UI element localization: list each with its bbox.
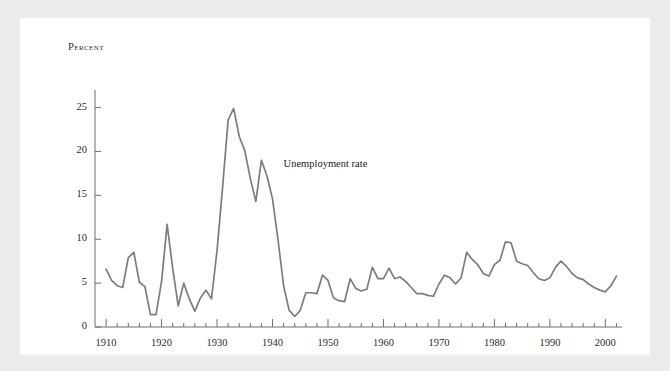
y-tick-label: 10 bbox=[63, 232, 87, 243]
y-tick-label: 15 bbox=[63, 188, 87, 199]
chart-figure: Percent 0510152025 191019201930194019501… bbox=[0, 0, 670, 371]
series-layer bbox=[106, 108, 616, 316]
chart-plot-area bbox=[0, 0, 670, 371]
x-tick-label: 1980 bbox=[474, 337, 514, 348]
x-tick-label: 1970 bbox=[419, 337, 459, 348]
x-tick-label: 1930 bbox=[197, 337, 237, 348]
x-tick-label: 2000 bbox=[585, 337, 625, 348]
x-tick-label: 1950 bbox=[308, 337, 348, 348]
y-tick-label: 25 bbox=[63, 101, 87, 112]
x-tick-label: 1940 bbox=[253, 337, 293, 348]
x-tick-label: 1960 bbox=[363, 337, 403, 348]
x-tick-label: 1920 bbox=[142, 337, 182, 348]
y-axis-title: Percent bbox=[68, 41, 104, 52]
data-line-unemployment-rate bbox=[106, 108, 616, 316]
x-tick-label: 1990 bbox=[530, 337, 570, 348]
series-annotation: Unemployment rate bbox=[284, 158, 368, 169]
y-tick-label: 5 bbox=[63, 276, 87, 287]
axes-layer bbox=[95, 90, 622, 327]
x-tick-label: 1910 bbox=[86, 337, 126, 348]
y-tick-label: 20 bbox=[63, 144, 87, 155]
y-tick-label: 0 bbox=[63, 320, 87, 331]
